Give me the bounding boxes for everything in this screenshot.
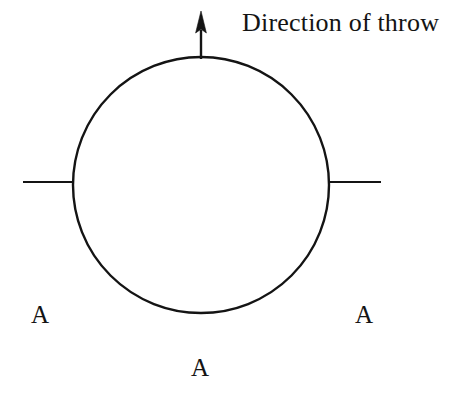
diagram-graphics: [0, 0, 460, 400]
diagram-canvas: Direction of throw A A A: [0, 0, 460, 400]
circle-outline: [73, 57, 329, 313]
direction-of-throw-label: Direction of throw: [242, 10, 439, 36]
label-a-left: A: [31, 302, 49, 327]
label-a-right: A: [355, 302, 373, 327]
direction-arrow-head: [196, 11, 207, 33]
label-a-bottom: A: [191, 355, 209, 380]
